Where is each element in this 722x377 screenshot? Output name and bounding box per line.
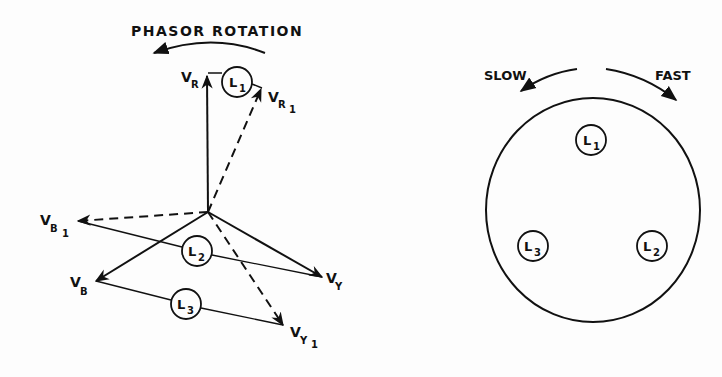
lamp-l3: L 3	[171, 289, 201, 319]
l2-link-right	[212, 255, 322, 277]
phasor-vb1	[78, 212, 208, 221]
label-vb1: V B 1	[40, 212, 69, 239]
label-vy: V Y	[326, 270, 343, 292]
svg-text:1: 1	[593, 141, 600, 152]
svg-text:L: L	[643, 239, 651, 254]
panel-lamp-l1: L 1	[576, 125, 606, 155]
phasor-vr	[207, 76, 208, 212]
svg-text:L: L	[177, 297, 185, 312]
svg-text:B: B	[50, 223, 58, 234]
svg-text:1: 1	[289, 104, 296, 115]
panel-lamp-l3: L 3	[518, 231, 548, 261]
l2-link-left	[78, 221, 182, 247]
l3-link-left	[96, 281, 171, 300]
svg-text:3: 3	[187, 305, 194, 316]
slow-label: SLOW	[484, 68, 527, 83]
svg-text:3: 3	[534, 247, 541, 258]
svg-text:1: 1	[239, 83, 246, 94]
panel-lamp-l2: L 2	[637, 231, 667, 261]
synchroscope-figure: PHASOR ROTATION L 1 L 2 L 3	[0, 0, 722, 377]
rotation-arrow-icon	[154, 43, 265, 54]
svg-text:Y: Y	[334, 281, 343, 292]
lamp-l2: L 2	[182, 236, 212, 266]
phasor-vy	[208, 212, 322, 277]
svg-text:B: B	[80, 286, 88, 297]
fast-label: FAST	[655, 68, 691, 83]
phasor-rotation-title: PHASOR ROTATION	[131, 23, 303, 39]
label-vb: V B	[70, 274, 88, 297]
figure-canvas: PHASOR ROTATION L 1 L 2 L 3	[0, 0, 722, 377]
l3-link-right	[201, 308, 283, 325]
svg-text:1: 1	[62, 228, 69, 239]
l1-link-right	[252, 84, 262, 88]
svg-text:L: L	[524, 239, 532, 254]
svg-text:1: 1	[311, 339, 318, 350]
label-vr: V R	[181, 69, 199, 90]
svg-text:L: L	[583, 133, 591, 148]
svg-text:2: 2	[198, 252, 205, 263]
svg-text:2: 2	[653, 247, 660, 258]
label-vr1: V R 1	[268, 89, 296, 115]
phasor-diagram: PHASOR ROTATION L 1 L 2 L 3	[40, 23, 343, 350]
slow-arrow-icon	[521, 69, 577, 91]
svg-text:L: L	[188, 244, 196, 259]
panel-outline	[486, 98, 700, 322]
label-vy1: V Y 1	[290, 324, 318, 350]
svg-text:R: R	[191, 79, 199, 90]
svg-text:Y: Y	[299, 335, 308, 346]
phasor-vr1	[208, 89, 261, 212]
svg-text:R: R	[278, 99, 286, 110]
svg-text:L: L	[229, 75, 237, 90]
lamp-panel: SLOW FAST L 1 L 3 L 2	[484, 68, 700, 322]
lamp-l1: L 1	[222, 67, 252, 97]
phasor-vy1	[208, 212, 283, 325]
